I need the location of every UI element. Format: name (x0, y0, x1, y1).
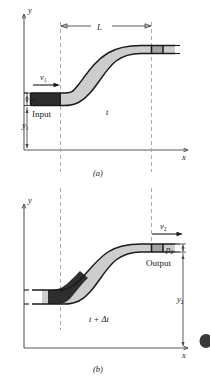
panel-a-length-label: L (96, 22, 102, 32)
panel-b-group: y x (22, 188, 210, 374)
panel-b-caption: (b) (93, 364, 103, 374)
panel-b-output-slab (152, 244, 164, 252)
panel-b-y-axis (22, 204, 26, 348)
panel-a-y-axis-label: y (27, 5, 32, 15)
panel-b-x-axis-label: x (181, 350, 186, 360)
panel-b-output-label: Output (146, 258, 172, 268)
panel-a-height-label: y1 (21, 120, 29, 131)
panel-a-caption: (a) (93, 168, 103, 178)
panel-b-pressure-dimension (180, 244, 186, 252)
edge-blob-decoration (200, 334, 211, 348)
panel-a-fluid-light (42, 46, 175, 106)
panel-a-time-label: t (106, 107, 109, 117)
panel-b-time-label: t + Δt (89, 314, 110, 324)
panel-b-velocity-arrow (152, 232, 183, 237)
panel-a-velocity-label: v1 (40, 72, 47, 83)
panel-b-velocity-label: v2 (160, 221, 167, 232)
panel-a-output-slab (152, 46, 164, 54)
fluid-flow-figure: y x L (0, 0, 210, 378)
panel-a-x-axis (24, 148, 188, 152)
panel-b-y-axis-label: y (27, 195, 32, 205)
physics-figure-container: y x L (0, 0, 210, 378)
panel-a-x-axis-label: x (181, 152, 186, 162)
panel-a-velocity-arrow (33, 83, 60, 88)
panel-a-input-label: Input (32, 109, 51, 119)
panel-b-x-axis (24, 346, 188, 350)
panel-a-pressure-dimension (24, 93, 30, 106)
panel-a-group: y x L (21, 5, 188, 178)
panel-a-length-dimension (61, 24, 151, 28)
